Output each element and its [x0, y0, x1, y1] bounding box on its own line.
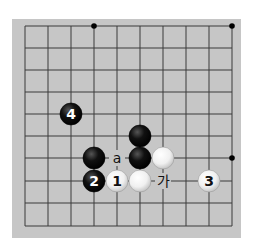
star-point — [91, 23, 97, 29]
star-point — [229, 23, 235, 29]
white-stone: 1 — [106, 170, 128, 192]
position-marker-label: 가 — [157, 173, 170, 189]
grid-lines — [25, 26, 232, 226]
go-board-diagram: a가 4213 — [0, 0, 255, 251]
black-stone: 2 — [83, 170, 105, 192]
black-stone: 4 — [60, 103, 82, 125]
white-stone: 3 — [198, 170, 220, 192]
black-stone — [83, 147, 105, 169]
star-point — [229, 155, 235, 161]
move-number: 4 — [66, 106, 76, 122]
black-stone — [129, 147, 151, 169]
move-number: 1 — [112, 173, 122, 189]
move-number: 2 — [89, 173, 99, 189]
white-stone — [152, 147, 174, 169]
move-number: 3 — [204, 173, 214, 189]
white-stone — [129, 170, 151, 192]
black-stone — [129, 125, 151, 147]
position-marker-label: a — [113, 150, 122, 166]
